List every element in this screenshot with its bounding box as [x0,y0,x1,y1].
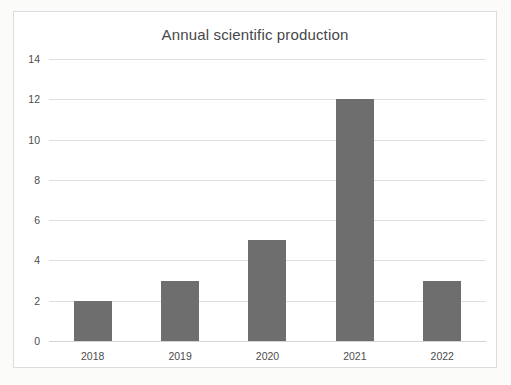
bars-layer: 20182019202020212022 [49,59,486,341]
y-axis-tick-label: 4 [34,254,40,266]
x-axis-tick-label: 2019 [168,350,191,362]
bar[interactable] [248,240,286,341]
bar-group: 2019 [136,59,223,341]
y-axis-tick-label: 0 [34,335,40,347]
y-axis-tick-label: 8 [34,174,40,186]
bar-group: 2022 [399,59,486,341]
bar[interactable] [161,281,199,341]
x-axis-tick-label: 2018 [81,350,104,362]
y-axis-tick-label: 10 [28,134,40,146]
chart-title: Annual scientific production [14,26,496,43]
gridline-y-0: 0 [49,341,486,342]
bar-group: 2020 [224,59,311,341]
bar-group: 2018 [49,59,136,341]
y-axis-tick-label: 14 [28,53,40,65]
bar[interactable] [423,281,461,341]
bar[interactable] [336,99,374,341]
x-axis-tick-label: 2021 [343,350,366,362]
bar[interactable] [74,301,112,341]
chart-frame: Annual scientific production 02468101214… [13,11,497,368]
x-axis-tick-label: 2020 [256,350,279,362]
y-axis-tick-label: 12 [28,93,40,105]
y-axis-tick-label: 6 [34,214,40,226]
x-axis-tick-label: 2022 [431,350,454,362]
plot-area: 02468101214 20182019202020212022 [49,59,486,341]
bar-group: 2021 [311,59,398,341]
y-axis-tick-label: 2 [34,295,40,307]
